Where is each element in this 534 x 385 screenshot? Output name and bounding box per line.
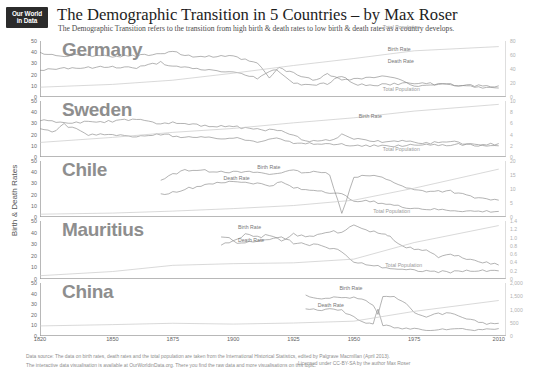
series-label-total-population: Total Population: [383, 146, 420, 152]
axis-spine: [40, 221, 506, 279]
y-tick-right: 1,500: [510, 293, 523, 299]
series-line-birth-rate: [221, 225, 499, 265]
axis-spine: [40, 283, 506, 336]
y-tick-left: 20: [31, 72, 37, 78]
x-axis: 18201850187519001925195019752010: [40, 336, 506, 348]
series-line-total-population: [40, 226, 499, 276]
panel-chile: Chile0102030405005101520Birth RateDeath …: [40, 161, 506, 217]
y-tick-right: 0: [510, 333, 513, 339]
y-tick-right: 1.4: [510, 218, 517, 224]
series-label-total-population: Total Population: [383, 86, 420, 92]
x-tick: 1900: [227, 336, 239, 342]
panel-mauritius: Mauritius0102030405000.20.40.60.81.01.21…: [40, 221, 506, 279]
page-header: Our World in Data The Demographic Transi…: [0, 0, 534, 34]
page-title: The Demographic Transition in 5 Countrie…: [57, 5, 458, 25]
series-label-birth-rate: Birth Rate: [238, 224, 261, 230]
series-line-death-rate: [40, 123, 499, 146]
x-tick: 1875: [167, 336, 179, 342]
series-label-death-rate: Death Rate: [318, 302, 344, 308]
y-tick-left: 40: [31, 169, 37, 175]
y-tick-right: 80: [510, 38, 516, 44]
y-tick-right: 1,000: [510, 307, 523, 313]
y-tick-right: 0.2: [510, 268, 517, 274]
series-label-birth-rate: Birth Rate: [257, 164, 280, 170]
y-tick-left: 40: [31, 230, 37, 236]
chart-page: Our World in Data The Demographic Transi…: [0, 0, 534, 385]
panel-sweden: Sweden010203040500246810Birth RateTotal …: [40, 101, 506, 157]
y-tick-right: 8: [510, 109, 513, 115]
x-tick: 1925: [287, 336, 299, 342]
plot-area: [40, 101, 506, 157]
series-label-birth-rate: Birth Rate: [359, 113, 382, 119]
series-label-total-population: Total Population: [383, 24, 420, 30]
series-line-birth-rate: [40, 119, 499, 146]
y-tick-left: 50: [31, 38, 37, 44]
series-label-birth-rate: Birth Rate: [388, 46, 411, 52]
x-tick: 2010: [493, 336, 505, 342]
series-label-birth-rate: Birth Rate: [339, 285, 362, 291]
y-tick-left: 20: [31, 132, 37, 138]
footer-source-line: Data source: The data on birth rates, de…: [26, 352, 526, 361]
y-tick-left: 30: [31, 180, 37, 186]
y-tick-left: 30: [31, 120, 37, 126]
y-tick-right: 0.6: [510, 251, 517, 257]
plot-area: [40, 221, 506, 279]
y-tick-left: 40: [31, 109, 37, 115]
footer-interactive-line: The interactive data visualisation is av…: [26, 361, 526, 370]
y-tick-right: 0.8: [510, 243, 517, 249]
y-tick-right: 20: [510, 80, 516, 86]
y-tick-right: 15: [510, 172, 516, 178]
y-tick-left: 30: [31, 301, 37, 307]
y-tick-right: 1.2: [510, 226, 517, 232]
series-line-total-population: [40, 104, 499, 142]
y-tick-left: 50: [31, 218, 37, 224]
y-tick-left: 40: [31, 291, 37, 297]
panel-germany: Germany01020304050020406080Birth RateDea…: [40, 41, 506, 97]
series-label-death-rate: Death Rate: [388, 58, 414, 64]
y-tick-right: 4: [510, 132, 513, 138]
y-tick-left: 20: [31, 253, 37, 259]
y-tick-right: 40: [510, 66, 516, 72]
y-tick-left: 20: [31, 312, 37, 318]
y-tick-left: 30: [31, 241, 37, 247]
series-label-death-rate: Death Rate: [238, 237, 264, 243]
y-tick-left: 10: [31, 83, 37, 89]
logo-line-2: in Data: [17, 18, 38, 24]
y-tick-left: 40: [31, 49, 37, 55]
plot-area: [40, 41, 506, 97]
y-tick-left: 10: [31, 264, 37, 270]
series-line-birth-rate: [161, 170, 499, 214]
y-tick-left: 30: [31, 60, 37, 66]
y-tick-right: 2: [510, 143, 513, 149]
series-line-death-rate: [161, 181, 499, 212]
y-tick-right: 0.4: [510, 259, 517, 265]
panel-china: China0102030405005001,0001,5002,000Birth…: [40, 283, 506, 336]
y-tick-right: 20: [510, 158, 516, 164]
series-line-death-rate: [306, 309, 499, 331]
y-tick-right: 500: [510, 320, 519, 326]
y-tick-left: 50: [31, 280, 37, 286]
series-label-death-rate: Death Rate: [224, 175, 250, 181]
series-label-total-population: Total Population: [373, 208, 410, 214]
y-tick-right: 10: [510, 98, 516, 104]
y-tick-left: 10: [31, 322, 37, 328]
x-tick: 1950: [348, 336, 360, 342]
y-tick-right: 60: [510, 52, 516, 58]
y-tick-right: 1.0: [510, 235, 517, 241]
y-tick-left: 50: [31, 98, 37, 104]
y-axis-left-title: Birth & Death Rates: [10, 146, 19, 256]
series-label-total-population: Total Population: [385, 262, 422, 268]
y-tick-left: 20: [31, 192, 37, 198]
y-tick-right: 5: [510, 200, 513, 206]
y-tick-left: 50: [31, 158, 37, 164]
y-tick-left: 10: [31, 203, 37, 209]
y-tick-left: 10: [31, 143, 37, 149]
owid-logo: Our World in Data: [6, 7, 48, 28]
y-tick-right: 10: [510, 186, 516, 192]
page-footer: Data source: The data on birth rates, de…: [26, 352, 526, 370]
series-line-death-rate: [40, 61, 499, 87]
series-line-total-population: [40, 300, 499, 325]
plot-area: [40, 283, 506, 336]
y-tick-right: 2,000: [510, 280, 523, 286]
y-tick-right: 6: [510, 120, 513, 126]
